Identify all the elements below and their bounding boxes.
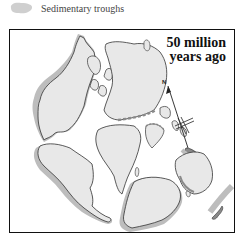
new-zealand-trough xyxy=(210,186,232,219)
eurasia-landmass xyxy=(104,42,167,120)
paleogeographic-map: N 50 million years ago xyxy=(9,29,235,233)
map-title-line2: years ago xyxy=(166,50,226,64)
sedimentary-trough-swatch xyxy=(9,2,34,14)
map-title: 50 million years ago xyxy=(166,36,226,64)
australia-landmass xyxy=(175,152,212,197)
legend-label: Sedimentary troughs xyxy=(41,3,124,14)
map-legend: Sedimentary troughs xyxy=(9,0,124,16)
south-america-landmass xyxy=(34,144,112,224)
map-title-line1: 50 million xyxy=(166,36,226,50)
antarctica-landmass xyxy=(119,177,182,232)
north-america-landmass xyxy=(33,34,97,142)
india-landmass xyxy=(145,124,164,148)
compass-north-label: N xyxy=(162,79,166,85)
